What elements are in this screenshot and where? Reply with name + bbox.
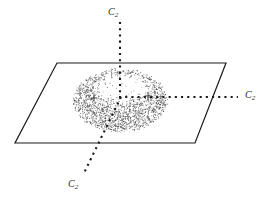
figure-canvas	[0, 0, 269, 202]
label-top-c2-axis: C2	[108, 6, 118, 19]
label-top-c2-letter: C	[108, 6, 115, 17]
label-right-c2-letter: C	[245, 89, 252, 100]
plus-marker-left	[91, 95, 98, 102]
label-bottom-c2-axis: C2	[68, 178, 78, 191]
label-right-c2-subscript: 2	[252, 94, 256, 102]
plane-parallelogram	[15, 63, 226, 143]
label-bottom-c2-letter: C	[68, 178, 75, 189]
label-top-c2-subscript: 2	[115, 11, 119, 19]
symmetry-axes-figure: C2 C2 C2	[0, 0, 269, 202]
label-bottom-c2-subscript: 2	[75, 183, 79, 191]
label-right-c2-axis: C2	[245, 89, 255, 102]
